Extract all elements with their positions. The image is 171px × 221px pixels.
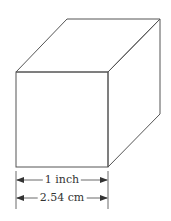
cube-diagram: 1 inch 2.54 cm	[0, 0, 171, 221]
cube-top-face	[16, 19, 160, 72]
cube-front-face	[16, 72, 108, 167]
cube-right-face	[108, 19, 160, 167]
cube-drawing	[0, 0, 171, 221]
dimension-label-cm: 2.54 cm	[38, 192, 87, 204]
dimension-label-inch: 1 inch	[43, 174, 81, 186]
